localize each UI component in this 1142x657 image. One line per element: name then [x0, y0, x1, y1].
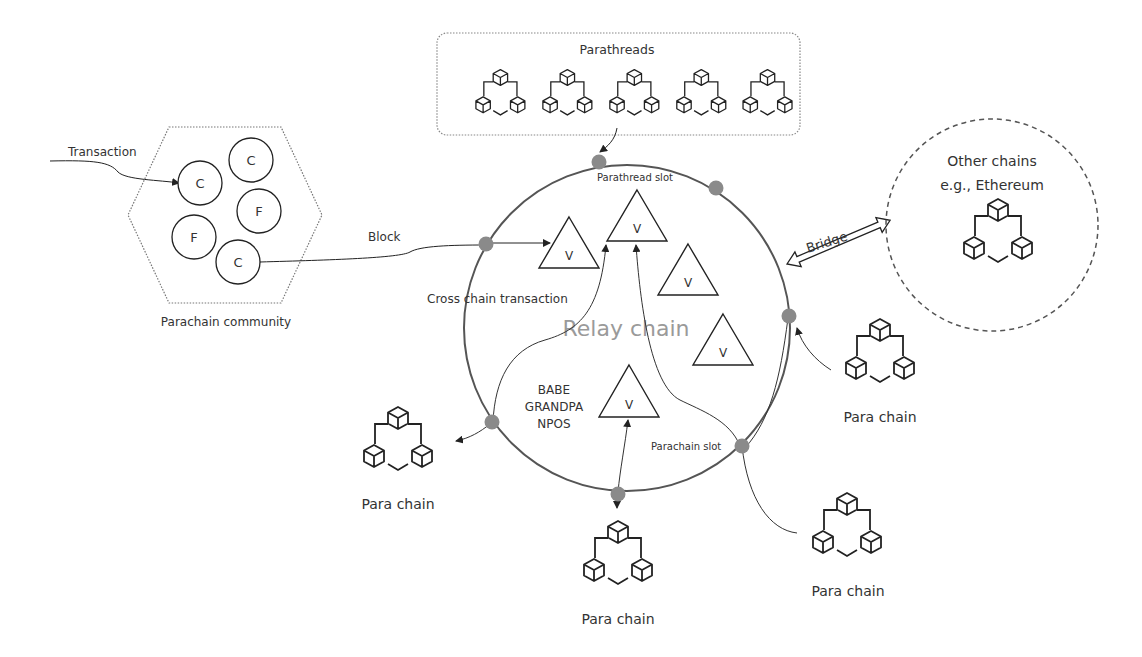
parathread-slot-dot: [592, 155, 607, 170]
parachain-cluster-icon: [364, 407, 432, 470]
community-node: C: [216, 240, 260, 284]
block-label: Block: [368, 230, 401, 244]
slot-dot: [479, 237, 494, 252]
validator-node: V: [658, 244, 718, 295]
consensus-grandpa: GRANDPA: [525, 400, 584, 414]
transaction-label: Transaction: [67, 145, 137, 159]
other-chains: Other chains e.g., Ethereum: [886, 119, 1098, 331]
svg-text:V: V: [684, 276, 693, 290]
parachain-left: Para chain: [361, 407, 434, 512]
block-line: [260, 245, 485, 262]
validator-node: V: [599, 365, 659, 417]
transaction-arrow: [50, 161, 179, 183]
parachain-bottom-right: Para chain: [811, 493, 884, 599]
parachain-slot-label: Parachain slot: [651, 441, 721, 452]
slot-dot: [709, 181, 724, 196]
parachain-label: Para chain: [811, 583, 884, 599]
consensus-babe: BABE: [538, 383, 570, 397]
parachain-community: Parachain community Transaction C C F F …: [50, 127, 485, 329]
consensus-npos: NPOS: [537, 417, 570, 431]
parachain-slot-dot: [735, 439, 750, 454]
parathread-cluster-icon: [743, 70, 792, 115]
svg-text:F: F: [190, 230, 197, 245]
other-chains-example: e.g., Ethereum: [940, 177, 1044, 193]
validator-node: V: [693, 314, 753, 365]
slot-dot: [485, 415, 500, 430]
parathread-cluster-icon: [610, 70, 659, 115]
community-node: F: [172, 215, 216, 259]
other-chains-title: Other chains: [947, 153, 1036, 169]
community-node: C: [229, 138, 273, 182]
parachain-bottom: Para chain: [581, 521, 654, 627]
parathread-slot-label: Parathread slot: [597, 172, 673, 183]
svg-text:V: V: [565, 249, 574, 263]
parathreads-group: Parathreads: [437, 33, 800, 152]
svg-text:F: F: [255, 204, 262, 219]
parathread-cluster-icon: [543, 70, 592, 115]
svg-text:V: V: [625, 398, 634, 412]
parathreads-title: Parathreads: [580, 42, 655, 57]
other-chains-circle: [886, 119, 1098, 331]
parachain-label: Para chain: [361, 496, 434, 512]
bridge: Bridge: [784, 213, 893, 271]
parachain-label: Para chain: [581, 611, 654, 627]
parathread-cluster-icon: [677, 70, 726, 115]
parachain-cluster-icon: [813, 493, 881, 556]
community-node: C: [178, 161, 222, 205]
community-label: Parachain community: [161, 315, 291, 329]
svg-text:V: V: [633, 222, 642, 236]
cross-chain-label: Cross chain transaction: [427, 292, 568, 306]
parachain-label: Para chain: [843, 409, 916, 425]
slot-dot: [611, 487, 626, 502]
parachain-right: Para chain: [843, 319, 916, 425]
slot-dot: [782, 309, 797, 324]
polkadot-architecture-diagram: Parathreads Parachain community Transact…: [0, 0, 1142, 657]
svg-text:C: C: [233, 255, 242, 270]
svg-text:C: C: [246, 153, 255, 168]
svg-text:C: C: [195, 176, 204, 191]
parachain-cluster-icon: [846, 319, 914, 382]
bridge-label: Bridge: [804, 228, 849, 255]
relay-chain: Relay chain Parathread slot Parachain sl…: [427, 155, 831, 534]
ethereum-cluster-icon: [964, 199, 1032, 262]
community-node: F: [237, 189, 281, 233]
parachain-cluster-icon: [584, 521, 652, 584]
parathread-cluster-icon: [476, 70, 525, 115]
validator-node: V: [607, 190, 667, 241]
svg-text:V: V: [719, 346, 728, 360]
